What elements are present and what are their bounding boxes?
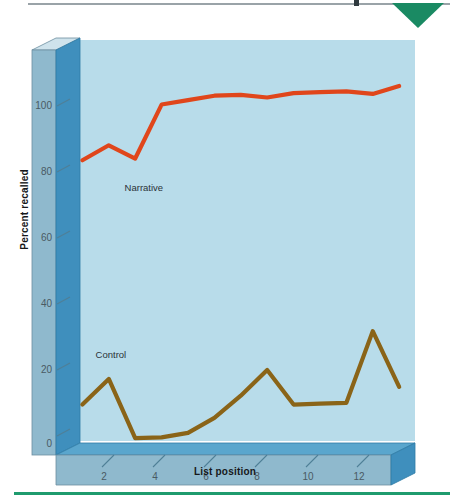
footer-rule bbox=[14, 492, 450, 495]
plot-background bbox=[70, 40, 415, 441]
y-tick-label: 80 bbox=[41, 166, 53, 177]
page-root: Percent recalled bbox=[0, 0, 450, 500]
y-tick-label: 40 bbox=[41, 298, 53, 309]
header-rule bbox=[28, 3, 450, 5]
header-dot-icon bbox=[354, 0, 359, 6]
y-tick-label: 0 bbox=[46, 438, 52, 449]
x-axis-top-face bbox=[56, 443, 415, 455]
green-triangle-icon bbox=[392, 3, 444, 28]
figure-chart: Percent recalled bbox=[0, 26, 450, 492]
series-label-narrative: Narrative bbox=[125, 182, 164, 193]
y-tick-label: 100 bbox=[35, 100, 52, 111]
chart-canvas: 100 80 60 40 20 0 2 4 6 8 10 12 bbox=[0, 26, 450, 492]
y-tick-label: 60 bbox=[41, 232, 53, 243]
x-axis-title: List position bbox=[0, 466, 450, 477]
y-tick-label: 20 bbox=[41, 364, 53, 375]
series-label-control: Control bbox=[96, 349, 127, 360]
